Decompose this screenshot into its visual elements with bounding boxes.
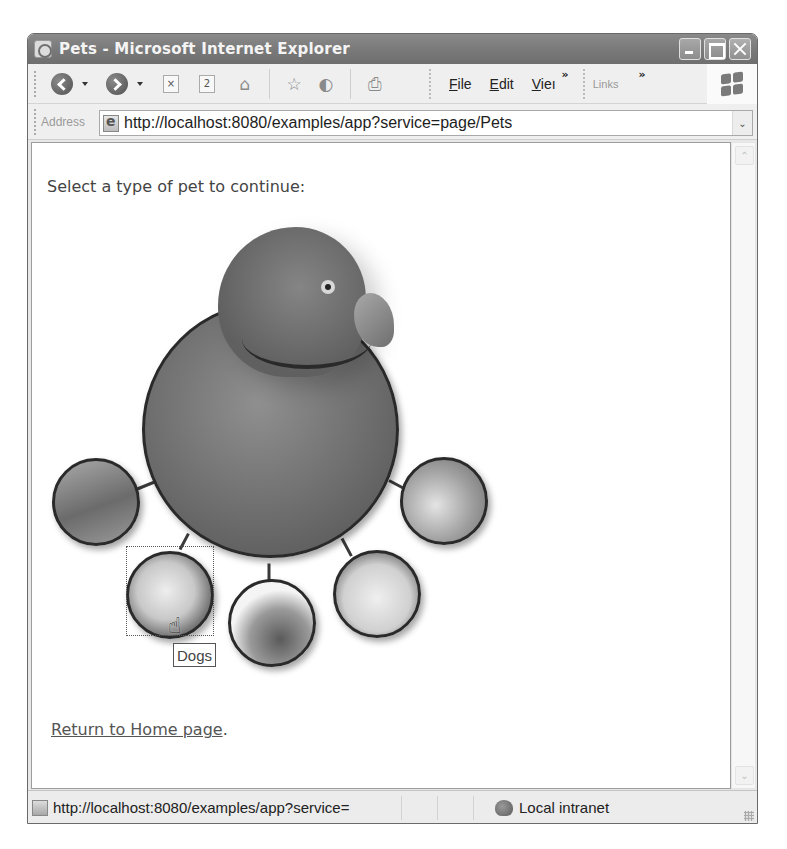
back-dropdown-icon[interactable] [82, 82, 88, 86]
return-home-link[interactable]: Return to Home page [51, 720, 223, 739]
parrot-eye [321, 280, 335, 294]
connector-line [341, 538, 353, 557]
address-label: Address [41, 115, 85, 129]
pet-link-cats[interactable] [333, 550, 421, 638]
pet-link-reptiles[interactable] [228, 579, 316, 667]
pet-link-fish[interactable] [52, 458, 140, 546]
toolbar-grip[interactable] [34, 71, 37, 97]
links-grip[interactable] [583, 69, 585, 99]
menu-overflow-chevron-icon[interactable]: » [562, 68, 569, 81]
menu-edit[interactable]: Edit [490, 76, 514, 92]
back-button[interactable] [51, 73, 73, 95]
return-suffix: . [223, 720, 228, 739]
status-pane [473, 796, 475, 820]
page-prompt: Select a type of pet to continue: [47, 177, 305, 196]
windows-logo-icon [707, 64, 757, 104]
print-button[interactable]: ⎙ [365, 75, 385, 93]
security-zone[interactable]: Local intranet [495, 799, 609, 816]
forward-dropdown-icon[interactable] [137, 82, 143, 86]
return-paragraph: Return to Home page. [51, 720, 228, 739]
ie-page-icon [34, 40, 52, 58]
parrot-neck-ring [242, 309, 372, 369]
links-label[interactable]: Links [593, 78, 619, 90]
address-dropdown-button[interactable]: ⌄ [732, 111, 752, 135]
toolbar-separator [269, 69, 270, 99]
window-title: Pets - Microsoft Internet Explorer [59, 40, 350, 58]
resize-grip[interactable] [744, 811, 754, 821]
address-grip[interactable] [34, 109, 37, 135]
hand-cursor-icon: ☝ [168, 613, 181, 638]
menu-view[interactable]: Vieı [532, 76, 556, 92]
address-url[interactable]: http://localhost:8080/examples/app?servi… [124, 114, 512, 132]
home-button[interactable]: ⌂ [235, 75, 255, 93]
close-button[interactable] [729, 38, 751, 60]
pet-link-birds[interactable] [400, 457, 488, 545]
refresh-button[interactable]: 2 [199, 75, 215, 93]
zone-label: Local intranet [519, 799, 609, 816]
toolbar-separator [350, 69, 351, 99]
tooltip: Dogs [173, 643, 216, 667]
forward-button[interactable] [106, 73, 128, 95]
status-pane [401, 796, 437, 820]
stop-button[interactable]: × [163, 75, 179, 93]
address-input[interactable]: http://localhost:8080/examples/app?servi… [99, 110, 753, 136]
scroll-up-button[interactable]: ⌃ [735, 146, 754, 165]
page-icon [103, 115, 119, 132]
standard-toolbar: × 2 ⌂ ☆ ◐ ⎙ File Edit Vieı » Links » [28, 64, 757, 104]
maximize-button[interactable] [704, 38, 726, 60]
title-bar[interactable]: Pets - Microsoft Internet Explorer [28, 34, 757, 64]
favorites-button[interactable]: ☆ [284, 75, 304, 93]
menu-file[interactable]: File [449, 76, 472, 92]
status-bar: http://localhost:8080/examples/app?servi… [28, 790, 757, 824]
address-bar: Address http://localhost:8080/examples/a… [28, 104, 757, 140]
browser-window: Pets - Microsoft Internet Explorer × 2 ⌂… [27, 33, 758, 824]
intranet-icon [495, 800, 513, 816]
scroll-down-button[interactable]: ⌄ [735, 766, 754, 785]
status-page-icon [32, 800, 48, 816]
links-overflow-chevron-icon[interactable]: » [638, 68, 645, 81]
page-content: Select a type of pet to continue: ☝ Dogs… [31, 142, 731, 789]
history-button[interactable]: ◐ [316, 75, 336, 93]
status-pane [437, 796, 473, 820]
vertical-scrollbar[interactable]: ⌃ ⌄ [731, 142, 756, 789]
menu-grip[interactable] [429, 69, 431, 99]
minimize-button[interactable] [679, 38, 701, 60]
status-text: http://localhost:8080/examples/app?servi… [53, 799, 401, 816]
